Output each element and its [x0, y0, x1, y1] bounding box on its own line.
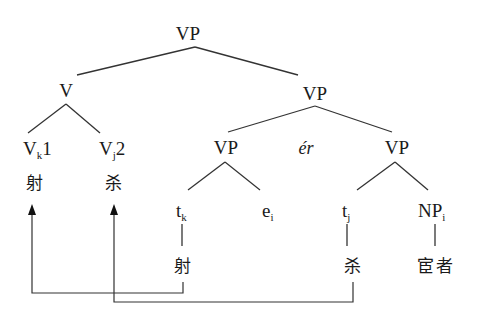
node-vp-mid: VP: [303, 83, 327, 104]
node-ei: ei: [262, 200, 274, 223]
edge-v-vk1: [28, 104, 66, 133]
edge-vp-vpleft: [228, 106, 315, 132]
movement-arrows: [28, 204, 353, 302]
node-v: V: [59, 80, 73, 101]
edge-vpleft-ei: [225, 162, 260, 190]
node-npi: NPi: [418, 200, 445, 223]
node-tj: tj: [342, 200, 350, 223]
edge-root-vp: [195, 47, 298, 75]
node-vp-left: VP: [214, 137, 238, 158]
syntax-tree-diagram: VP V VP Vk1 Vj2 VP ér VP 射 杀 tk ei tj NP…: [0, 0, 478, 323]
node-tk: tk: [176, 200, 187, 223]
node-vk1: Vk1: [23, 138, 52, 161]
edge-root-v: [77, 47, 195, 75]
movement-arrow-k: [32, 214, 183, 293]
gloss-vj2: 杀: [105, 173, 122, 193]
gloss-vk1: 射: [26, 173, 43, 193]
edge-vp-vpright: [315, 106, 392, 132]
arrowhead-icon: [28, 204, 36, 215]
edge-v-vj2: [66, 104, 100, 133]
conjunction-er: ér: [299, 138, 315, 158]
edge-vpleft-tk: [188, 162, 225, 190]
edge-vpright-npi: [395, 162, 428, 190]
gloss-tj: 杀: [344, 256, 361, 276]
gloss-tk: 射: [174, 256, 191, 276]
node-vj2: Vj2: [99, 138, 125, 161]
movement-arrow-j: [114, 214, 353, 302]
node-vp-right: VP: [385, 137, 409, 158]
gloss-npi: 宦者: [417, 256, 455, 276]
tree-nodes: VP V VP Vk1 Vj2 VP ér VP 射 杀 tk ei tj NP…: [23, 23, 455, 276]
arrowhead-icon: [110, 204, 118, 215]
edge-vpright-tj: [357, 162, 395, 190]
node-root-vp: VP: [176, 23, 200, 44]
